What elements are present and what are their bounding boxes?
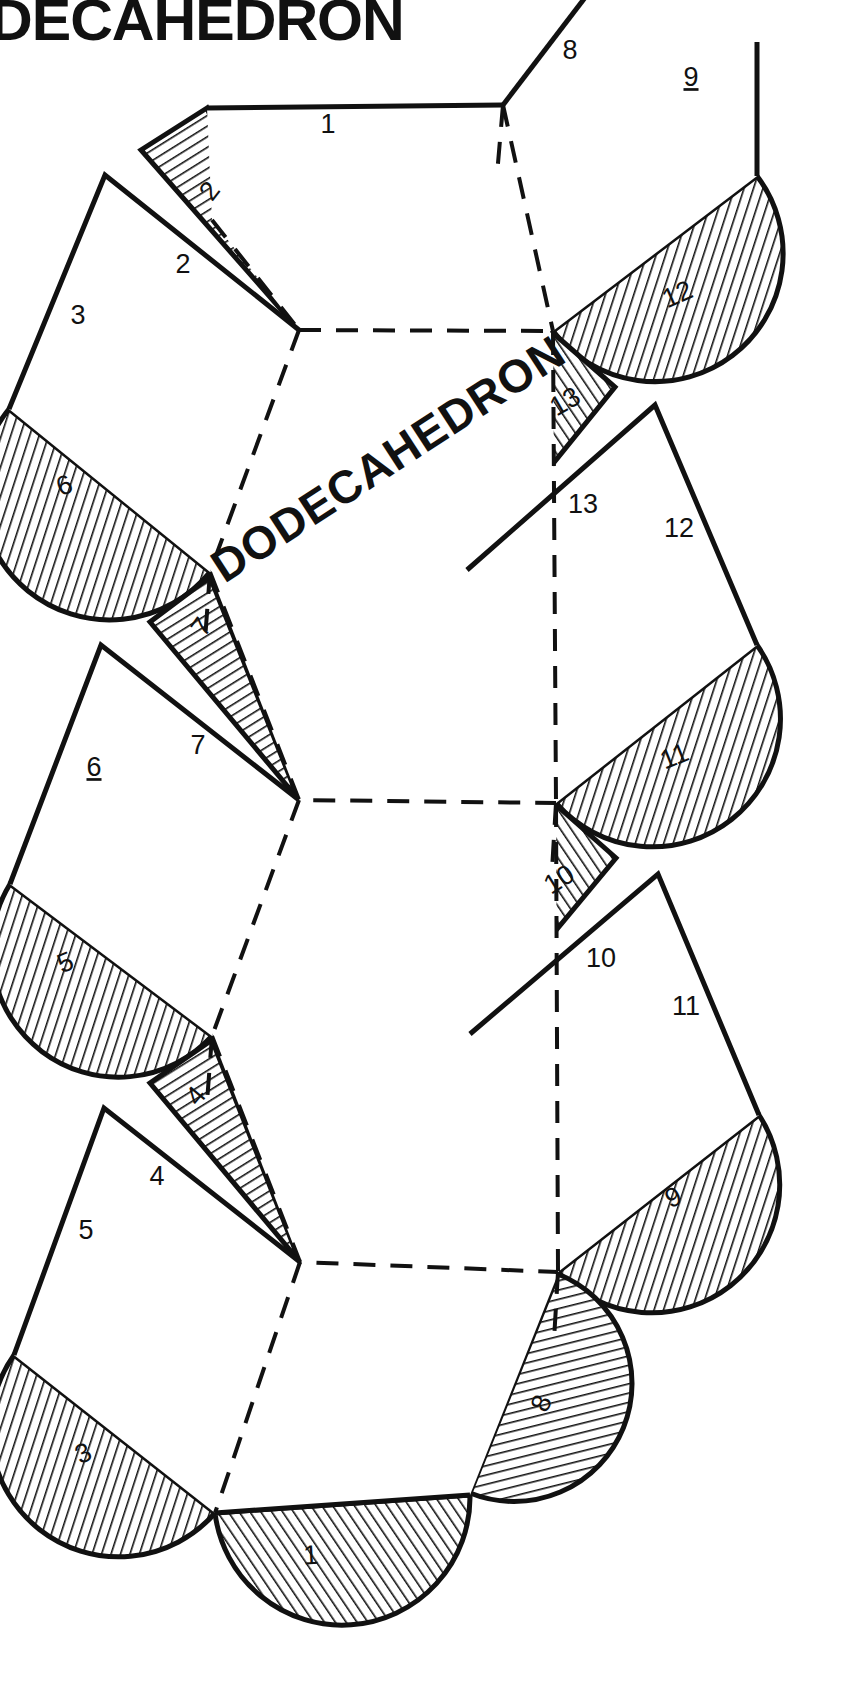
edge-label-4: 4 <box>149 1161 164 1191</box>
tab-1 <box>215 1495 470 1625</box>
cut-face-A-top <box>207 105 503 108</box>
edge-label-9: 9 <box>683 62 698 92</box>
net-drawing: 18923131276101145 21213671110549831 DODE… <box>0 0 847 1695</box>
edge-label-7: 7 <box>190 730 205 760</box>
edge-label-10: 10 <box>586 943 616 973</box>
page-title: DECAHEDRON <box>0 0 404 53</box>
edge-label-2: 2 <box>175 249 190 279</box>
edge-label-6: 6 <box>86 752 101 782</box>
edge-label-1: 1 <box>320 109 335 139</box>
edge-label-8: 8 <box>562 35 577 65</box>
edge-label-5: 5 <box>78 1215 93 1245</box>
edge-label-12: 12 <box>664 513 694 543</box>
edge-label-13: 13 <box>568 489 598 519</box>
edge-label-11: 11 <box>672 991 700 1021</box>
tab-label-1: 1 <box>303 1540 320 1571</box>
dodecahedron-net-figure: 18923131276101145 21213671110549831 DODE… <box>0 0 847 1695</box>
edge-label-3: 3 <box>70 300 85 330</box>
